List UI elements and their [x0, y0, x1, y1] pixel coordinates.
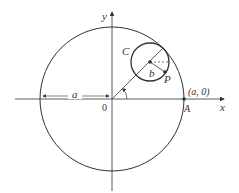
- origin-label: 0: [102, 102, 107, 113]
- theta-arc: [123, 88, 127, 99]
- hypocycloid-diagram: y x 0 a (a, 0) A C b P: [0, 0, 239, 193]
- y-axis-label: y: [101, 10, 107, 22]
- small-circle-c-label: C: [122, 45, 130, 57]
- point-a: [182, 97, 186, 101]
- a-zero-coords-label: (a, 0): [188, 86, 210, 98]
- x-axis-label: x: [219, 101, 225, 113]
- radius-b-label: b: [149, 67, 155, 79]
- point-a-label: A: [183, 103, 191, 114]
- point-p-label: P: [163, 73, 171, 85]
- ray-theta: [112, 48, 163, 99]
- radius-a-label: a: [72, 88, 78, 100]
